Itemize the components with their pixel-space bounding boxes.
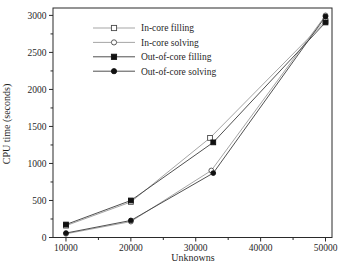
y-tick-label: 500 (32, 196, 47, 206)
y-tick-label: 1000 (28, 159, 47, 169)
x-tick-label: 10000 (54, 243, 78, 253)
data-point-marker (64, 222, 69, 227)
legend-label: In-core filling (141, 23, 194, 33)
y-tick-label: 1500 (28, 122, 47, 132)
legend-item: Out-of-core filling (93, 52, 212, 62)
x-tick-label: 40000 (249, 243, 273, 253)
x-tick-label: 50000 (314, 243, 338, 253)
legend-label: Out-of-core solving (141, 67, 216, 77)
data-point-marker (211, 171, 216, 176)
data-point-marker (323, 20, 328, 25)
y-tick-label: 3000 (28, 11, 47, 21)
chart-legend: In-core fillingIn-core solvingOut-of-cor… (93, 23, 216, 76)
data-point-marker (64, 231, 69, 236)
x-axis-label: Unknowns (171, 252, 214, 263)
series-out-of-core-filling (64, 20, 328, 227)
data-point-marker (111, 54, 116, 59)
series-line (66, 17, 326, 234)
data-point-marker (128, 198, 133, 203)
data-point-marker (211, 140, 216, 145)
y-tick-label: 2000 (28, 85, 47, 95)
legend-item: In-core solving (93, 38, 199, 48)
data-point-marker (111, 40, 116, 45)
data-point-marker (128, 218, 133, 223)
x-tick-label: 20000 (119, 243, 143, 253)
legend-label: In-core solving (141, 38, 199, 48)
legend-label: Out-of-core filling (141, 52, 212, 62)
y-tick-label: 2500 (28, 48, 47, 58)
cpu-time-vs-unknowns-chart: 1000020000300004000050000050010001500200… (0, 0, 346, 269)
legend-item: Out-of-core solving (93, 67, 216, 77)
chart-figure: 1000020000300004000050000050010001500200… (0, 0, 346, 269)
y-axis-label: CPU time (seconds) (1, 84, 13, 165)
data-point-marker (111, 25, 116, 30)
series-line (66, 15, 326, 233)
series-in-core-filling (64, 19, 328, 228)
data-point-marker (111, 69, 116, 74)
y-tick-label: 0 (42, 233, 47, 243)
legend-item: In-core filling (93, 23, 194, 33)
data-point-marker (323, 14, 328, 19)
